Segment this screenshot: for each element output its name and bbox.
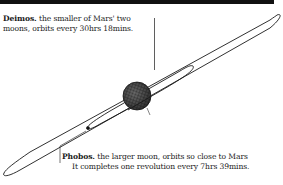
deimos-desc-line1: the smaller of Mars' two xyxy=(37,14,131,23)
phobos-desc-line2: It completes one revolution every 7hrs 3… xyxy=(62,162,249,172)
phobos-label: Phobos. the larger moon, orbits so close… xyxy=(62,152,249,172)
deimos-name: Deimos. xyxy=(3,14,37,23)
deimos-label: Deimos. the smaller of Mars' two moons, … xyxy=(3,14,133,34)
mars-axis xyxy=(147,108,150,115)
phobos-moon xyxy=(86,126,90,130)
mars-planet xyxy=(123,82,151,110)
deimos-desc-line2: moons, orbits every 30hrs 18mins. xyxy=(3,24,133,34)
phobos-desc-line1: the larger moon, orbits so close to Mars xyxy=(95,152,248,161)
phobos-name: Phobos. xyxy=(62,152,95,161)
